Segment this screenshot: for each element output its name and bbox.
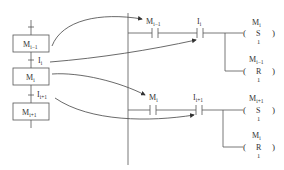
- svg-text:R: R: [256, 143, 262, 152]
- svg-text:Mi+1: Mi+1: [249, 94, 264, 104]
- sfc-transition-label-1: Ii: [38, 56, 43, 66]
- coil-reset-m-i: Mi ( R ) 1: [243, 131, 275, 159]
- svg-text:1: 1: [257, 152, 260, 159]
- svg-text:(: (: [243, 66, 246, 76]
- svg-text:Mi−1: Mi−1: [249, 55, 264, 65]
- sfc-transition-label-2: Ii+1: [37, 90, 47, 100]
- coil-reset-m-i-1: Mi−1 ( R ) 1: [243, 55, 275, 83]
- coil-set-m-i: Mi ( S ) 1: [243, 18, 275, 45]
- coil-set-m-i+1: Mi+1 ( S ) 1: [243, 94, 275, 122]
- svg-text:S: S: [256, 29, 260, 38]
- arrow-step-i-to-contact: [52, 74, 145, 95]
- svg-text:(: (: [243, 28, 246, 38]
- contact-label-i-i: Ii: [197, 17, 202, 27]
- svg-text:): ): [272, 28, 275, 38]
- svg-text:(: (: [243, 105, 246, 115]
- svg-text:1: 1: [257, 38, 260, 45]
- svg-text:): ): [272, 142, 275, 152]
- svg-text:1: 1: [257, 76, 260, 83]
- contact-label-m-i-1: Mi−1: [146, 17, 161, 27]
- sfc-step-label-1: Mi−1: [23, 40, 38, 50]
- ladder-diagram: [128, 13, 243, 165]
- mapping-arrows: [50, 17, 196, 119]
- svg-text:): ): [272, 66, 275, 76]
- arrow-transition-i-1-to-contact: [55, 98, 194, 119]
- contact-label-i-i+1: Ii+1: [193, 93, 203, 103]
- svg-text:1: 1: [257, 115, 260, 122]
- svg-text:Mi: Mi: [252, 131, 261, 141]
- svg-text:Mi: Mi: [252, 18, 261, 28]
- svg-text:): ): [272, 105, 275, 115]
- arrow-step-i-1-to-contact: [52, 17, 142, 46]
- arrow-transition-i-to-contact: [50, 40, 196, 62]
- svg-text:S: S: [256, 106, 260, 115]
- sfc-step-label-2: Mi: [26, 73, 35, 83]
- sfc-to-ladder-diagram: Mi−1 Mi Mi+1 Ii Ii+1 Mi−1 Ii Mi I: [0, 0, 284, 170]
- contact-label-m-i: Mi: [149, 93, 158, 103]
- sfc-step-label-3: Mi+1: [22, 108, 37, 118]
- svg-text:(: (: [243, 142, 246, 152]
- svg-text:R: R: [256, 67, 262, 76]
